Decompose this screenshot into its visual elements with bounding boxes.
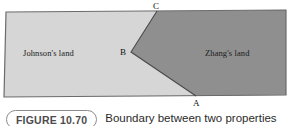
region-label-johnson: Johnson's land [23,48,74,58]
figure-caption-row: FIGURE 10.70 Boundary between two proper… [0,108,295,126]
vertex-label-c: C [153,1,159,11]
figure-caption-text: Boundary between two properties [105,111,295,125]
figure-container: Johnson's land Zhang's land C B A FIGURE… [0,0,295,126]
vertex-label-b: B [120,47,126,57]
region-label-zhang: Zhang's land [205,48,250,58]
vertex-label-a: A [193,98,200,108]
land-diagram: Johnson's land Zhang's land C B A [0,0,295,104]
figure-number-badge: FIGURE 10.70 [6,110,97,126]
figure-number-text: FIGURE 10.70 [16,114,87,126]
